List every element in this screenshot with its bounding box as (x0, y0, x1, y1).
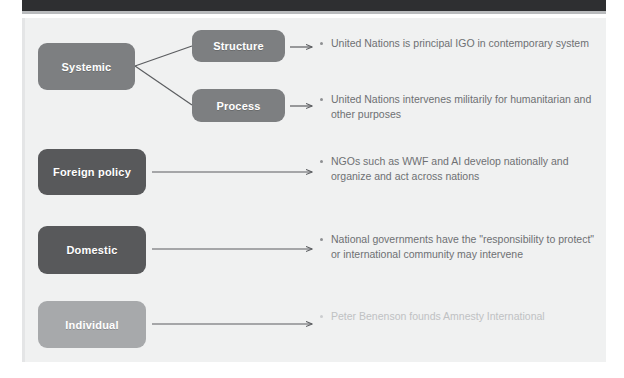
bullet-dot-icon (320, 42, 323, 45)
level-box-process-label: Process (216, 100, 260, 112)
bullet-dot-icon (320, 160, 323, 163)
level-box-process[interactable]: Process (192, 89, 285, 122)
bullet-individual: Peter Benenson founds Amnesty Internatio… (320, 309, 596, 324)
bullet-foreign-policy-text: NGOs such as WWF and AI develop national… (331, 154, 596, 184)
figure-page: Systemic Structure Process Foreign polic… (0, 0, 624, 378)
bullet-individual-text: Peter Benenson founds Amnesty Internatio… (331, 309, 545, 324)
bullet-process: United Nations intervenes militarily for… (320, 92, 596, 122)
bullet-dot-icon (320, 98, 323, 101)
bullet-process-text: United Nations intervenes militarily for… (331, 92, 596, 122)
bullet-dot-icon (320, 315, 323, 318)
bullet-dot-icon (320, 238, 323, 241)
level-box-domestic[interactable]: Domestic (38, 226, 146, 274)
page-header-band (22, 0, 606, 11)
bullet-structure-text: United Nations is principal IGO in conte… (331, 36, 589, 51)
bullet-domestic: National governments have the "responsib… (320, 232, 602, 262)
page-header-band-shadow (22, 11, 606, 14)
bullet-foreign-policy: NGOs such as WWF and AI develop national… (320, 154, 596, 184)
level-box-structure[interactable]: Structure (192, 30, 285, 62)
level-box-foreign-policy-label: Foreign policy (53, 166, 131, 178)
level-box-foreign-policy[interactable]: Foreign policy (38, 149, 146, 195)
level-box-systemic[interactable]: Systemic (38, 43, 135, 90)
level-box-systemic-label: Systemic (62, 61, 112, 73)
diagram-panel-left-edge (22, 18, 25, 362)
level-box-individual-label: Individual (65, 319, 118, 331)
level-box-individual[interactable]: Individual (38, 301, 146, 348)
level-box-structure-label: Structure (213, 40, 264, 52)
level-box-domestic-label: Domestic (66, 244, 117, 256)
bullet-structure: United Nations is principal IGO in conte… (320, 36, 592, 51)
bullet-domestic-text: National governments have the "responsib… (331, 232, 602, 262)
